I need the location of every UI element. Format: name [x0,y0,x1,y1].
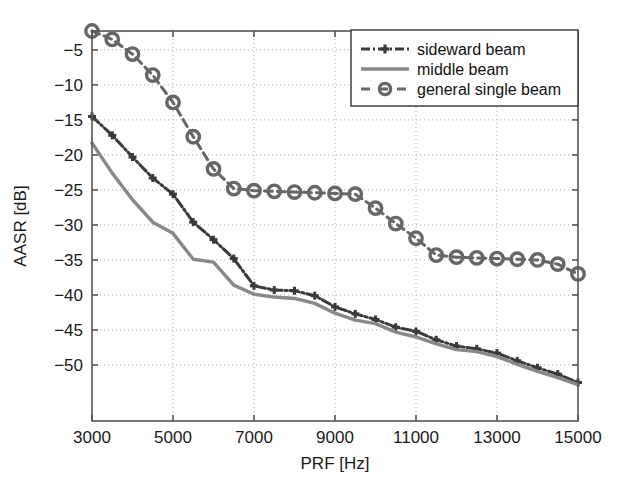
figure-container: 3000500070009000110001300015000−5−10−15−… [0,0,636,488]
x-tick-label: 15000 [554,428,601,447]
x-tick-label: 11000 [393,428,439,447]
y-tick-label: −10 [54,76,83,95]
legend-label: general single beam [417,81,561,98]
x-axis-title: PRF [Hz] [301,454,370,473]
y-tick-label: −40 [54,286,83,305]
legend-label: sideward beam [417,41,526,58]
x-tick-label: 7000 [235,428,273,447]
y-tick-label: −45 [54,321,83,340]
x-tick-label: 9000 [316,428,354,447]
y-axis-title: AASR [dB] [11,185,30,266]
x-tick-label: 13000 [473,428,520,447]
y-tick-label: −20 [54,146,83,165]
y-tick-label: −15 [54,111,83,130]
y-tick-label: −5 [64,41,83,60]
x-tick-label: 5000 [154,428,192,447]
x-tick-label: 3000 [73,428,111,447]
y-tick-label: −25 [54,181,83,200]
y-tick-label: −35 [54,251,83,270]
y-tick-label: −30 [54,216,83,235]
legend-label: middle beam [417,61,509,78]
y-tick-label: −50 [54,356,83,375]
chart-canvas: 3000500070009000110001300015000−5−10−15−… [0,0,636,488]
legend-box: sideward beammiddle beamgeneral single b… [351,30,578,106]
